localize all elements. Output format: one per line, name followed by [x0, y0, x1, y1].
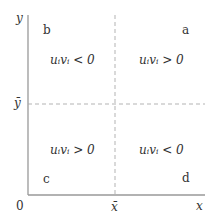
y-axis-label: y [16, 12, 23, 24]
origin-label: 0 [16, 200, 24, 212]
quadrant-b-label: b [43, 24, 51, 36]
quadrant-b-expr: uᵢvᵢ < 0 [50, 54, 95, 66]
quadrant-c-label: c [43, 173, 50, 185]
quadrant-a-expr: uᵢvᵢ > 0 [139, 54, 184, 66]
y-mean-label: ȳ [14, 97, 21, 109]
quadrant-d-expr: uᵢvᵢ < 0 [139, 144, 184, 156]
quadrant-d-label: d [182, 172, 190, 184]
x-mean-label: x̄ [111, 201, 118, 213]
x-axis-label: x [196, 200, 203, 212]
quadrant-a-label: a [182, 24, 189, 36]
quadrant-c-expr: uᵢvᵢ > 0 [50, 144, 95, 156]
